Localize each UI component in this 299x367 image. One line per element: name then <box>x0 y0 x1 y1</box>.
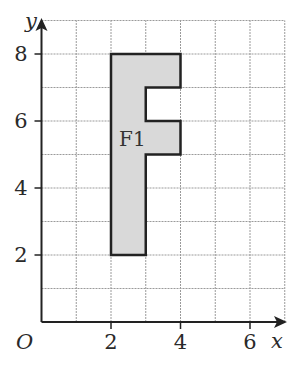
y-tick-label: 2 <box>14 243 27 267</box>
y-tick-label: 6 <box>14 109 27 133</box>
coordinate-grid: 2462468 x y O F1 <box>0 0 299 367</box>
y-axis-label: y <box>24 9 38 33</box>
x-tick-label: 2 <box>104 330 117 354</box>
origin-label: O <box>16 330 33 354</box>
y-tick-label: 8 <box>14 42 27 66</box>
x-tick-label: 6 <box>243 330 256 354</box>
y-tick-label: 4 <box>14 176 27 200</box>
x-tick-label: 4 <box>174 330 187 354</box>
x-axis-label: x <box>271 329 283 353</box>
shape-label: F1 <box>119 127 146 151</box>
shape-f1 <box>111 54 181 255</box>
